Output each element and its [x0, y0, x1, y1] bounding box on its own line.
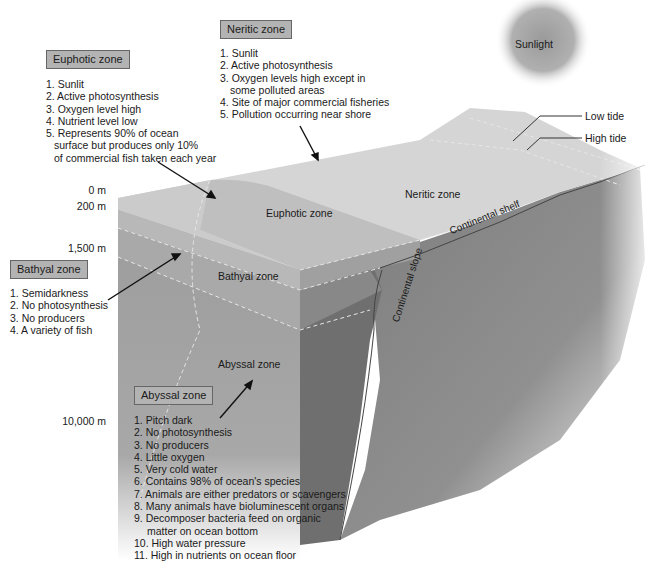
euphotic-callout-list: 1. Sunlit 2. Active photosynthesis 3. Ox…	[46, 78, 216, 164]
depth-10000m: 10,000 m	[14, 415, 106, 427]
list-item: some polluted areas	[220, 84, 389, 96]
neritic-callout-list: 1. Sunlit 2. Active photosynthesis 3. Ox…	[220, 47, 389, 121]
list-item: 1. Pitch dark	[134, 414, 346, 426]
list-item: 11. High in nutrients on ocean floor	[134, 549, 346, 561]
bathyal-callout-list: 1. Semidarkness 2. No photosynthesis 3. …	[10, 287, 108, 336]
list-item: 3. Oxygen levels high except in	[220, 72, 389, 84]
list-item: of commercial fish taken each year	[46, 152, 216, 164]
bathyal-callout-title: Bathyal zone	[10, 260, 88, 279]
list-item: 9. Decomposer bacteria feed on organic	[134, 512, 346, 524]
list-item: 5. Represents 90% of ocean	[46, 127, 216, 139]
list-item: 5. Very cold water	[134, 463, 346, 475]
abyssal-callout-title: Abyssal zone	[134, 386, 213, 405]
low-tide-label: Low tide	[585, 110, 624, 122]
depth-1500m: 1,500 m	[46, 242, 106, 254]
sunlight-label: Sunlight	[515, 38, 553, 50]
euphotic-callout-title: Euphotic zone	[46, 50, 130, 69]
list-item: 3. No producers	[10, 312, 108, 324]
neritic-callout-title: Neritic zone	[220, 20, 292, 39]
list-item: 3. No producers	[134, 439, 346, 451]
high-tide-label: High tide	[585, 132, 626, 144]
list-item: 4. A variety of fish	[10, 324, 108, 336]
list-item: 7. Animals are either predators or scave…	[134, 488, 346, 500]
list-item: 4. Little oxygen	[134, 451, 346, 463]
list-item: surface but produces only 10%	[46, 139, 216, 151]
list-item: 8. Many animals have bioluminescent orga…	[134, 500, 346, 512]
list-item: 1. Semidarkness	[10, 287, 108, 299]
bathyal-zone-label: Bathyal zone	[218, 270, 279, 282]
list-item: 4. Site of major commercial fisheries	[220, 96, 389, 108]
euphotic-zone-label: Euphotic zone	[266, 207, 333, 219]
depth-0m: 0 m	[46, 184, 106, 196]
abyssal-zone-label: Abyssal zone	[218, 358, 280, 370]
list-item: 5. Pollution occurring near shore	[220, 108, 389, 120]
list-item: 2. Active photosynthesis	[220, 59, 389, 71]
list-item: 1. Sunlit	[46, 78, 216, 90]
abyssal-callout-list: 1. Pitch dark 2. No photosynthesis 3. No…	[134, 414, 346, 562]
list-item: 10. High water pressure	[134, 537, 346, 549]
depth-200m: 200 m	[46, 200, 106, 212]
list-item: 2. Active photosynthesis	[46, 90, 216, 102]
list-item: matter on ocean bottom	[134, 525, 346, 537]
list-item: 6. Contains 98% of ocean's species	[134, 475, 346, 487]
list-item: 1. Sunlit	[220, 47, 389, 59]
list-item: 2. No photosynthesis	[134, 426, 346, 438]
list-item: 2. No photosynthesis	[10, 299, 108, 311]
neritic-zone-label: Neritic zone	[405, 188, 460, 200]
list-item: 4. Nutrient level low	[46, 115, 216, 127]
list-item: 3. Oxygen level high	[46, 103, 216, 115]
